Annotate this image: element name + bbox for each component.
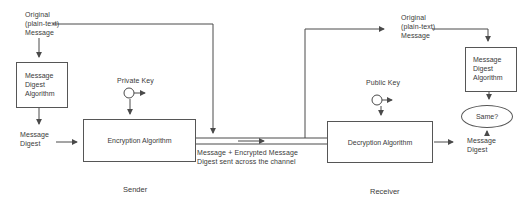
receiver-message-digest-label: Message Digest xyxy=(467,136,496,154)
public-key-label: Public Key xyxy=(366,78,400,87)
decryption-algorithm-box: Decryption Algorithm xyxy=(327,121,433,163)
private-key-icon xyxy=(124,88,145,98)
sender-message-digest-algorithm-box: Message Digest Algorithm xyxy=(16,62,68,108)
digital-signature-diagram: Original (plain-text) Message Message Di… xyxy=(0,0,531,206)
connector-layer xyxy=(0,0,531,206)
receiver-original-message-label: Original (plain-text) Message xyxy=(401,13,435,40)
receiver-role-label: Receiver xyxy=(370,187,400,196)
encryption-algorithm-box: Encryption Algorithm xyxy=(83,119,196,162)
public-key-icon xyxy=(372,95,392,105)
same-comparison-ellipse: Same? xyxy=(461,105,513,128)
receiver-message-digest-algorithm-label: Message Digest Algorithm xyxy=(473,55,516,82)
sender-role-label: Sender xyxy=(123,185,147,194)
private-key-label: Private Key xyxy=(117,76,154,85)
channel-caption: Message + Encrypted Message Digest sent … xyxy=(197,148,298,166)
decryption-algorithm-label: Decryption Algorithm xyxy=(348,138,413,147)
sender-message-digest-algorithm-label: Message Digest Algorithm xyxy=(25,71,67,98)
same-comparison-label: Same? xyxy=(476,113,498,120)
wire-receiver-original-to-digest-algorithm xyxy=(432,29,488,41)
sender-original-message-label: Original (plain-text) Message xyxy=(25,10,59,37)
receiver-message-digest-algorithm-box: Message Digest Algorithm xyxy=(465,47,517,92)
sender-message-digest-label: Message Digest xyxy=(20,130,49,148)
encryption-algorithm-label: Encryption Algorithm xyxy=(107,136,171,145)
